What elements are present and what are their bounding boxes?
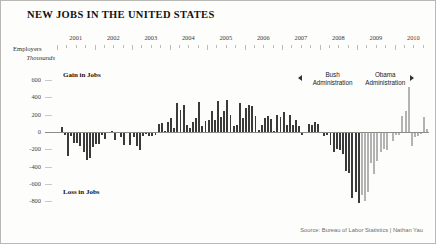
triangle-right-icon — [410, 75, 414, 81]
x-axis-tick-mark — [291, 45, 292, 48]
chart-bar — [358, 132, 360, 203]
chart-bar — [342, 132, 344, 154]
chart-bar — [67, 132, 69, 156]
y-axis-title-line2: Thousands — [13, 54, 57, 63]
chart-bar — [123, 132, 125, 145]
x-axis-tick-mark — [57, 45, 58, 50]
x-axis-tick-mark — [216, 45, 217, 48]
zero-axis-line — [45, 132, 429, 133]
x-axis-tick-mark — [273, 45, 274, 48]
chart-bar — [176, 103, 178, 132]
x-axis-tick-label: 2002 — [93, 34, 133, 41]
x-axis-tick-mark — [413, 45, 414, 48]
y-axis-tick-mark — [45, 115, 52, 116]
x-axis-tick-label: 2008 — [318, 34, 358, 41]
bush-note-line1: Bush — [325, 71, 339, 78]
chart-bar — [183, 105, 185, 132]
x-axis-tick-mark — [198, 45, 199, 48]
chart-page: NEW JOBS IN THE UNITED STATES Employers … — [0, 0, 436, 244]
chart-bar — [104, 132, 106, 139]
x-axis-tick-mark — [376, 45, 377, 48]
chart-bar — [376, 132, 378, 161]
y-axis-tick-mark — [45, 184, 52, 185]
chart-bar — [311, 125, 313, 132]
chart-bar — [361, 132, 363, 195]
chart-bar — [308, 124, 310, 132]
chart-bar — [73, 132, 75, 143]
x-axis-tick-mark — [113, 45, 114, 48]
chart-bar — [89, 132, 91, 158]
chart-bar — [161, 123, 163, 132]
chart-bar — [129, 132, 131, 145]
chart-bar — [139, 132, 141, 150]
x-axis-tick-label: 2007 — [281, 34, 321, 41]
chart-bar — [370, 132, 372, 163]
x-axis-tick-mark — [423, 45, 424, 48]
x-axis-tick-mark — [104, 45, 105, 48]
chart-bar — [211, 111, 213, 132]
chart-bar — [86, 132, 88, 160]
y-axis-tick-label: 200 — [15, 111, 41, 118]
chart-bar — [114, 132, 116, 140]
x-axis-tick-mark — [338, 45, 339, 48]
chart-bar — [92, 132, 94, 147]
chart-bar — [95, 132, 97, 144]
chart-bar — [292, 125, 294, 132]
chart-bar — [408, 87, 410, 132]
x-axis-tick-mark — [141, 45, 142, 48]
chart-bar — [401, 116, 403, 132]
chart-bar — [79, 132, 81, 146]
y-axis-tick-label: -400 — [15, 163, 41, 170]
chart-bar — [364, 132, 366, 201]
x-axis-tick-label: 2009 — [356, 34, 396, 41]
x-axis-tick-mark — [226, 45, 227, 48]
chart-bar — [198, 102, 200, 132]
obama-note-line1: Obama — [375, 71, 396, 78]
x-axis-tick-mark — [132, 45, 133, 50]
chart-bar — [236, 125, 238, 132]
chart-bar — [345, 132, 347, 171]
chart-bar — [373, 132, 375, 174]
x-axis-tick-mark — [329, 45, 330, 48]
chart-bar — [333, 132, 335, 152]
chart-bar — [330, 132, 332, 145]
chart-bar — [348, 132, 350, 173]
obama-note-line2: Administration — [365, 79, 405, 86]
chart-bar — [195, 118, 197, 132]
x-axis-tick-label: 2006 — [243, 34, 283, 41]
chart-bar — [270, 119, 272, 132]
chart-bar — [217, 101, 219, 132]
chart-bar — [411, 132, 413, 146]
y-axis-tick-mark — [45, 201, 52, 202]
x-axis-tick-label: 2004 — [168, 34, 208, 41]
chart-bar — [264, 118, 266, 132]
chart-bar — [383, 132, 385, 149]
y-axis-tick-label: -600 — [15, 180, 41, 187]
chart-bar — [186, 125, 188, 132]
x-axis-tick-mark — [357, 45, 358, 50]
chart-bar — [317, 124, 319, 132]
chart-bar — [248, 105, 250, 132]
chart-bar — [136, 132, 138, 146]
y-axis-tick-label: 400 — [15, 93, 41, 100]
chart-bar — [336, 132, 338, 149]
bush-administration-note: Bush Administration — [310, 71, 356, 86]
y-axis-tick-label: 0 — [15, 128, 41, 135]
chart-bar — [380, 132, 382, 152]
x-axis-tick-mark — [188, 45, 189, 48]
loss-in-jobs-label: Loss in Jobs — [63, 188, 100, 196]
chart-bar — [280, 117, 282, 132]
chart-bar — [355, 132, 357, 192]
y-axis-tick-label: -800 — [15, 197, 41, 204]
chart-bar — [220, 117, 222, 132]
chart-bar — [242, 118, 244, 132]
y-axis-tick-mark — [45, 149, 52, 150]
chart-bar — [392, 132, 394, 141]
y-axis-title: Employers Thousands — [13, 45, 57, 62]
chart-bar — [223, 111, 225, 132]
chart-bar — [208, 120, 210, 132]
x-axis-tick-mark — [235, 45, 236, 48]
x-axis-tick-mark — [254, 45, 255, 48]
y-axis-tick-label: -200 — [15, 145, 41, 152]
x-axis-tick-mark — [170, 45, 171, 50]
